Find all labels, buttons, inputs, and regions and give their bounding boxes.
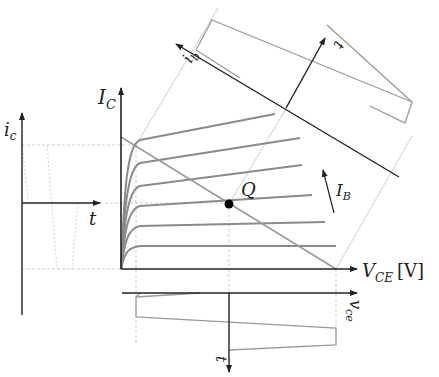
vce-axis-label: VCE[V] [362, 260, 424, 285]
characteristic-curves [121, 114, 336, 269]
q-point-label: Q [241, 179, 256, 200]
small-ib-label: ib [178, 46, 203, 68]
ib-waveform [196, 20, 412, 123]
small-t-top-label: t [329, 38, 348, 53]
small-vce-label: vce [343, 300, 365, 322]
ib-axis [176, 44, 399, 177]
t-axis-top [286, 38, 325, 108]
small-ic-label: ic [4, 119, 17, 143]
projection-lines [136, 8, 412, 269]
small-t-left-label: t [89, 208, 97, 229]
vce-waveform [136, 293, 336, 350]
transistor-diagram: IC VCE[V] ic t Q IB vce t ib t [0, 0, 439, 377]
ic-axis-label: IC [97, 85, 116, 112]
ib-direction-label: IB [335, 180, 351, 203]
q-point [225, 200, 234, 209]
small-t-bottom-label: t [212, 356, 230, 363]
ib-direction-arrow [323, 170, 334, 213]
ic-waveform [22, 145, 78, 269]
